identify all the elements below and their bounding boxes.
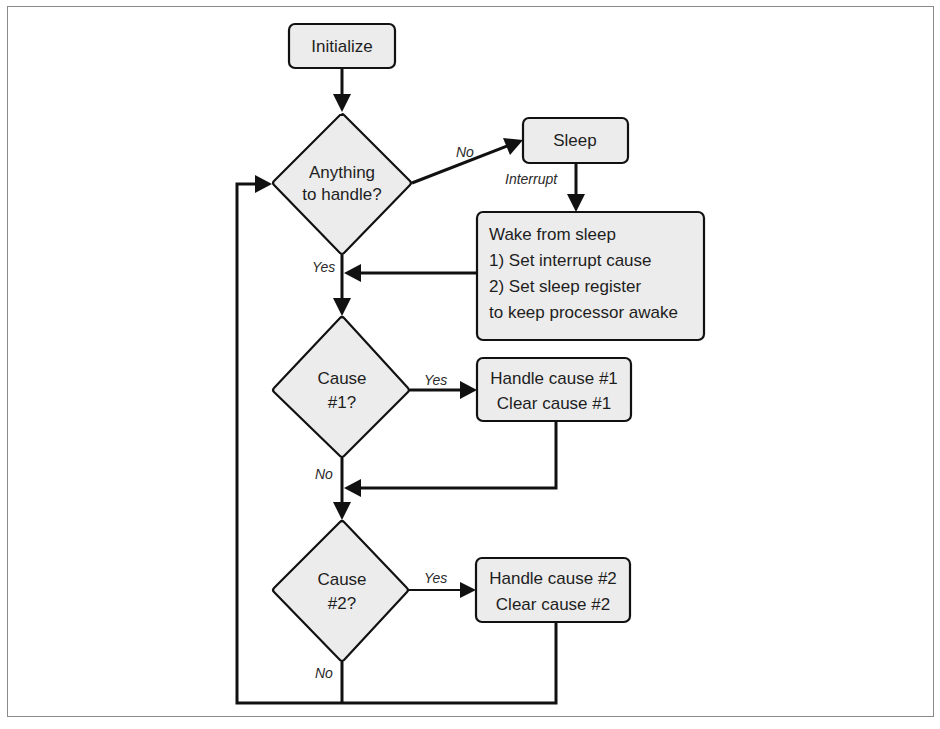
sleep-label: Sleep <box>553 131 596 150</box>
edge-label-interrupt: Interrupt <box>505 171 558 187</box>
cause1-label-line1: Cause <box>317 369 366 388</box>
handle2-label-line1: Handle cause #2 <box>489 569 617 588</box>
anything-label-line1: Anything <box>309 163 375 182</box>
edge-handle1-to-mainline <box>344 421 556 497</box>
edge-label-cause1-no: No <box>315 466 333 482</box>
wake-label-line4: to keep processor awake <box>489 303 678 322</box>
node-sleep: Sleep <box>523 118 628 163</box>
cause2-label-line2: #2? <box>328 594 356 613</box>
edge-label-cause2-no: No <box>315 665 333 681</box>
anything-label-line2: to handle? <box>302 185 381 204</box>
node-handle-cause2: Handle cause #2 Clear cause #2 <box>476 558 630 622</box>
node-cause1: Cause #1? <box>273 317 409 457</box>
wake-label-line2: 1) Set interrupt cause <box>489 251 652 270</box>
node-handle-cause1: Handle cause #1 Clear cause #1 <box>477 358 631 421</box>
edge-label-cause2-yes: Yes <box>424 570 447 586</box>
cause2-label-line1: Cause <box>317 570 366 589</box>
initialize-label: Initialize <box>311 37 372 56</box>
flowchart: Initialize Anything to handle? Sleep Wak… <box>0 0 940 729</box>
edge-anything-yes-to-cause1 <box>333 255 351 316</box>
node-wake-from-sleep: Wake from sleep 1) Set interrupt cause 2… <box>477 212 704 340</box>
edge-sleep-to-wake <box>567 163 585 212</box>
edge-initialize-to-anything <box>333 68 351 112</box>
wake-label-line1: Wake from sleep <box>489 225 616 244</box>
node-cause2: Cause #2? <box>273 521 408 661</box>
edge-label-anything-yes: Yes <box>312 259 335 275</box>
node-initialize: Initialize <box>289 24 395 68</box>
handle1-label-line1: Handle cause #1 <box>490 369 618 388</box>
handle1-label-line2: Clear cause #1 <box>497 394 611 413</box>
edge-wake-to-mainline <box>344 264 477 282</box>
edge-label-anything-no: No <box>456 144 474 160</box>
handle2-label-line2: Clear cause #2 <box>496 595 610 614</box>
node-anything-to-handle: Anything to handle? <box>273 114 411 254</box>
wake-label-line3: 2) Set sleep register <box>489 277 641 296</box>
edge-label-cause1-yes: Yes <box>424 372 447 388</box>
cause1-label-line2: #1? <box>328 393 356 412</box>
